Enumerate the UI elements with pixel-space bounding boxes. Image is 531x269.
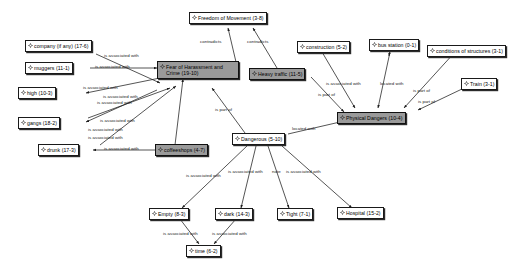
edge-coffeeshops-fear	[175, 79, 183, 145]
edge-label-empty-time: is associated with	[163, 232, 198, 237]
edge-label-busstation-physical: located with	[380, 82, 403, 87]
node-train[interactable]: Train (3-1)	[461, 78, 497, 90]
node-dark[interactable]: dark (14-3)	[215, 208, 253, 220]
edge-busstation-stub	[389, 50, 390, 56]
edge-label-cross-3: is associated with	[100, 119, 135, 124]
gear-icon	[41, 147, 46, 152]
edge-label-cross-4: is associated with	[88, 136, 123, 141]
edge-label-dangerous-physical: located with	[292, 127, 315, 132]
edge-label-dangerous-hospital: is associated with	[286, 170, 321, 175]
gear-icon	[300, 44, 305, 49]
gear-icon	[340, 210, 345, 215]
node-label: Dangerous (5-10)	[241, 136, 282, 143]
edge-label-dangerous-fear: is part of	[215, 108, 232, 113]
node-high[interactable]: high (10-3)	[18, 87, 56, 99]
node-label: Train (3-1)	[470, 81, 494, 88]
node-label: construction (5-2)	[306, 44, 347, 51]
gear-icon	[152, 211, 157, 216]
node-label: company (if any) (17-6)	[34, 43, 89, 50]
edge-label-fear-gangs: is associated with	[88, 128, 123, 133]
edge-label-fear-high: is associated with	[83, 86, 118, 91]
node-drunk[interactable]: drunk (17-3)	[38, 144, 79, 156]
node-conditions-of-structures[interactable]: conditions of structures (3-1)	[427, 45, 506, 57]
gear-icon	[218, 211, 223, 216]
node-hospital[interactable]: Hospital (15-2)	[337, 207, 384, 219]
edge-label-muggers-fear: is associated with	[95, 65, 130, 70]
edge-label-company-fear: is associated with	[104, 54, 139, 59]
gear-icon	[340, 115, 345, 120]
node-heavy-traffic[interactable]: Heavy traffic (11-5)	[249, 68, 305, 80]
node-label: drunk (17-3)	[47, 147, 76, 154]
edge-dangerous-tight	[268, 146, 289, 208]
gear-icon	[21, 90, 26, 95]
node-time[interactable]: time (6-2)	[186, 245, 221, 257]
gear-icon	[28, 43, 33, 48]
edge-heavytraffic-freedom	[253, 28, 277, 68]
edge-construction-physical	[322, 52, 355, 108]
node-physical-dangers[interactable]: Physical Dangers (10-4)	[337, 112, 406, 124]
edge-label-conditions-physical: is part of	[413, 89, 430, 94]
node-label: bus station (0-1)	[378, 42, 416, 49]
edge-dangerous-hospital	[282, 146, 352, 208]
node-empty[interactable]: Empty (8-3)	[149, 208, 189, 220]
node-company[interactable]: company (if any) (17-6)	[25, 40, 92, 52]
node-label: time (6-2)	[195, 248, 218, 255]
gear-icon	[430, 48, 435, 53]
gear-icon	[160, 64, 165, 69]
node-label: Tight (7-1)	[286, 211, 310, 218]
concept-map-canvas: Freedom of Movement (3-8) company (if an…	[0, 0, 531, 269]
edge-label-dark-time: is associated with	[212, 232, 247, 237]
node-label: Heavy traffic (11-5)	[258, 71, 302, 78]
node-label: dark (14-3)	[224, 211, 250, 218]
node-label: coffeeshops (4-7)	[164, 147, 205, 154]
edge-label-contradicts-1: contradicts	[200, 40, 221, 45]
gear-icon	[235, 136, 240, 141]
gear-icon	[372, 42, 377, 47]
node-tight[interactable]: Tight (7-1)	[277, 208, 313, 220]
edge-label-dangerous-empty: is associated with	[186, 174, 221, 179]
gear-icon	[464, 81, 469, 86]
node-label: conditions of structures (3-1)	[436, 48, 503, 55]
node-label: Physical Dangers (10-4)	[346, 115, 403, 122]
node-dangerous[interactable]: Dangerous (5-10)	[232, 133, 285, 145]
gear-icon	[252, 71, 257, 76]
node-label: muggers (11-1)	[34, 65, 70, 72]
node-label: gangs (18-2)	[27, 120, 57, 127]
node-label: Freedom of Movement (3-8)	[198, 15, 264, 22]
node-coffeeshops[interactable]: coffeeshops (4-7)	[155, 144, 208, 156]
edge-label-coffeeshops-drunk: is associated with	[104, 147, 139, 152]
gear-icon	[28, 65, 33, 70]
node-label: Empty (8-3)	[158, 211, 186, 218]
node-label: high (10-3)	[27, 90, 53, 97]
gear-icon	[192, 15, 197, 20]
node-label: Hospital (15-2)	[346, 210, 381, 217]
gear-icon	[280, 211, 285, 216]
gear-icon	[21, 120, 26, 125]
gear-icon	[158, 147, 163, 152]
node-label: Fear of Harassment and Crime (19-10)	[166, 64, 236, 77]
edge-label-dangerous-dark: is associated with	[228, 170, 263, 175]
node-bus-station[interactable]: bus station (0-1)	[369, 39, 419, 51]
edge-busstation-physical	[378, 52, 390, 108]
gear-icon	[189, 248, 194, 253]
edge-label-train-physical: is part of	[418, 100, 435, 105]
edge-label-construction-physical: is part of	[318, 93, 335, 98]
edge-fear-freedom	[228, 28, 236, 62]
edge-dangerous-dark	[241, 146, 256, 208]
node-construction[interactable]: construction (5-2)	[297, 41, 350, 53]
edge-label-contradicts-2: contradicts	[247, 40, 268, 45]
edge-label-heavytraffic-physical: is associated with	[326, 82, 361, 87]
node-freedom-of-movement[interactable]: Freedom of Movement (3-8)	[189, 12, 267, 24]
node-gangs[interactable]: gangs (18-2)	[18, 117, 60, 129]
node-muggers[interactable]: muggers (11-1)	[25, 62, 73, 74]
edge-label-cross-2: is associated with	[97, 101, 132, 106]
node-fear-of-harassment-and-crime[interactable]: Fear of Harassment and Crime (19-10)	[157, 61, 239, 79]
edge-label-nate: nate	[272, 170, 281, 175]
